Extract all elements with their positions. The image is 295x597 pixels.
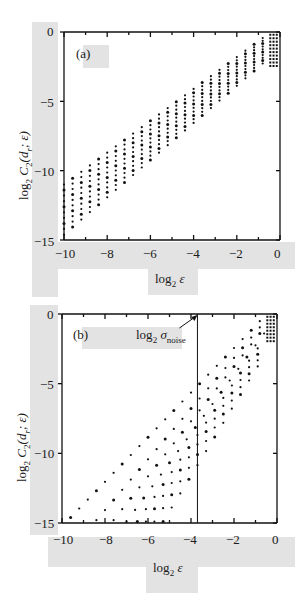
y-axis-label-b: log2 C2(dr; ε) — [14, 413, 32, 482]
ytick-neg10: −10 — [34, 447, 54, 460]
plot-area-b — [0, 0, 295, 597]
ytick-neg15: −15 — [34, 517, 54, 530]
panel-label-b: (b) — [73, 327, 88, 343]
xtick-neg10: −10 — [53, 533, 73, 546]
xtick-neg2: −2 — [226, 533, 240, 546]
noise-annotation: log2 σnoise — [136, 327, 186, 345]
x-axis-label-b: log2 ε — [153, 560, 183, 578]
xtick-neg6: −6 — [141, 533, 155, 546]
xtick-neg8: −8 — [99, 533, 113, 546]
xtick-0: 0 — [272, 533, 279, 546]
panel-b: (b) log2 σnoise 0 −5 −10 −15 −10 −8 −6 −… — [0, 0, 295, 597]
xtick-neg4: −4 — [183, 533, 197, 546]
ytick-neg5: −5 — [40, 378, 54, 391]
ytick-0: 0 — [47, 308, 54, 321]
